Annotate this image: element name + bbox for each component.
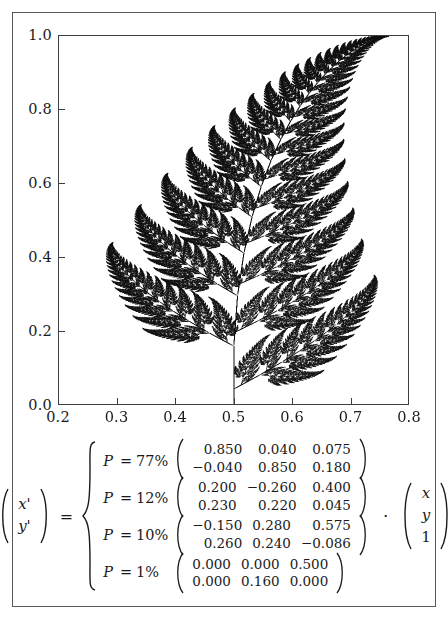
matrix-cell: 0.045 <box>302 497 356 515</box>
y-axis-tick <box>58 183 65 184</box>
matrix-cell: 0.500 <box>285 556 334 574</box>
probability-value: 12% <box>136 490 168 506</box>
matrix-cell: 0.180 <box>302 459 356 477</box>
matrix-cell: 0.000 <box>236 556 285 574</box>
x-axis-tick <box>175 398 176 405</box>
matrix-left-paren-icon <box>173 438 185 480</box>
y-axis-tick-label: 1.0 <box>19 27 52 43</box>
ifs-matrices: 0.8500.0400.075−0.0400.8500.1800.200−0.2… <box>173 440 370 592</box>
probability-equals: = <box>116 490 136 506</box>
y-axis-tick <box>58 257 65 258</box>
lhs-left-paren-icon <box>0 487 10 545</box>
x-axis-tick <box>117 398 118 405</box>
x-axis-tick-label: 0.6 <box>280 409 304 425</box>
probability-label: P=12% <box>103 479 168 516</box>
matrix-cell: 0.575 <box>296 517 356 535</box>
matrix-left-paren-icon <box>173 476 185 518</box>
x-axis-tick-label: 0.4 <box>163 409 187 425</box>
rhs-vector: x y 1 <box>418 483 434 548</box>
probability-labels: P=77%P=12%P=10%P=1% <box>103 440 168 592</box>
matrix-cell: 0.075 <box>302 441 356 459</box>
x-axis-tick-label: 0.3 <box>105 409 129 425</box>
x-axis-tick <box>234 398 235 405</box>
rhs-vector-item-2: 1 <box>421 527 431 549</box>
x-axis-tick-label: 0.7 <box>339 409 363 425</box>
probability-label: P=77% <box>103 442 168 479</box>
ifs-equation: x' y' = P=77%P=12%P=10%P=1% 0.8500.0400.… <box>13 431 437 601</box>
figure-frame: 0.20.30.40.50.60.70.8 0.00.20.40.60.81.0… <box>12 12 436 607</box>
matrix-cell: 0.400 <box>302 479 356 497</box>
rhs-right-paren-icon <box>439 481 448 551</box>
matrix-cell: 0.850 <box>247 459 301 477</box>
x-axis-tick <box>351 398 352 405</box>
matrix-left-paren-icon <box>173 514 185 556</box>
matrix-cell: 0.850 <box>187 441 247 459</box>
matrix-cell: 0.280 <box>247 517 296 535</box>
ifs-matrix: 0.200−0.2600.4000.2300.2200.045 <box>173 478 370 515</box>
x-axis-tick-label: 0.5 <box>222 409 246 425</box>
rhs-vector-item-1: y <box>422 505 430 527</box>
ifs-matrix: −0.1500.2800.5750.2600.240−0.086 <box>173 517 370 554</box>
y-axis-tick-label: 0.0 <box>19 397 52 413</box>
matrix-cell: 0.160 <box>236 573 285 591</box>
probability-value: 1% <box>136 564 159 580</box>
lhs-right-paren-icon <box>39 487 52 545</box>
cases-brace-icon <box>81 440 98 592</box>
matrix-cell: 0.000 <box>187 556 236 574</box>
ifs-matrix: 0.8500.0400.075−0.0400.8500.180 <box>173 440 370 477</box>
matrix-right-paren-icon <box>335 552 347 594</box>
y-axis-tick <box>58 109 65 110</box>
probability-value: 77% <box>136 453 168 469</box>
x-axis-tick-label: 0.8 <box>397 409 421 425</box>
probability-equals: = <box>116 527 136 543</box>
matrix-left-paren-icon <box>173 552 185 594</box>
y-axis-tick-label: 0.6 <box>19 175 52 191</box>
matrix-cell: 0.220 <box>242 497 302 515</box>
matrix-cell: −0.086 <box>296 535 356 553</box>
fractal-plot <box>58 35 409 405</box>
matrix-cell: 0.240 <box>247 535 296 553</box>
lhs-vector: x' y' <box>15 494 34 538</box>
matrix-right-paren-icon <box>358 514 370 556</box>
matrix-cell: 0.200 <box>187 479 241 497</box>
matrix-cell: 0.230 <box>187 497 241 515</box>
matrix-cell: 0.000 <box>285 573 334 591</box>
y-axis-tick-label: 0.4 <box>19 249 52 265</box>
probability-equals: = <box>116 453 136 469</box>
rhs-left-paren-icon <box>399 481 413 551</box>
plot-axes-box <box>58 35 409 405</box>
dot-operator: · <box>375 508 394 525</box>
probability-symbol: P <box>103 527 116 543</box>
matrix-values: 0.8500.0400.075−0.0400.8500.180 <box>185 441 358 477</box>
matrix-right-paren-icon <box>358 476 370 518</box>
matrix-cell: −0.040 <box>187 459 247 477</box>
probability-symbol: P <box>103 453 116 469</box>
rhs-vector-item-0: x <box>422 483 430 505</box>
y-axis-tick-label: 0.2 <box>19 323 52 339</box>
ifs-matrix: 0.0000.0000.5000.0000.1600.000 <box>173 555 370 592</box>
probability-label: P=1% <box>103 553 168 590</box>
probability-symbol: P <box>103 490 116 506</box>
matrix-cell: 0.000 <box>187 573 236 591</box>
matrix-values: −0.1500.2800.5750.2600.240−0.086 <box>185 517 358 553</box>
x-axis-tick <box>292 398 293 405</box>
matrix-values: 0.0000.0000.5000.0000.1600.000 <box>185 556 335 592</box>
equals-sign: = <box>57 507 76 526</box>
matrix-values: 0.200−0.2600.4000.2300.2200.045 <box>185 479 358 515</box>
probability-value: 10% <box>136 527 168 543</box>
matrix-cell: −0.150 <box>187 517 247 535</box>
probability-label: P=10% <box>103 516 168 553</box>
page-caption-sliver <box>16 619 256 627</box>
lhs-vector-item-0: x' <box>18 494 31 516</box>
probability-equals: = <box>116 564 136 580</box>
lhs-vector-item-1: y' <box>18 516 31 538</box>
matrix-right-paren-icon <box>358 438 370 480</box>
matrix-cell: 0.260 <box>187 535 247 553</box>
matrix-cell: 0.040 <box>247 441 301 459</box>
probability-symbol: P <box>103 564 116 580</box>
matrix-cell: −0.260 <box>242 479 302 497</box>
y-axis-tick <box>58 331 65 332</box>
y-axis-tick-label: 0.8 <box>19 101 52 117</box>
